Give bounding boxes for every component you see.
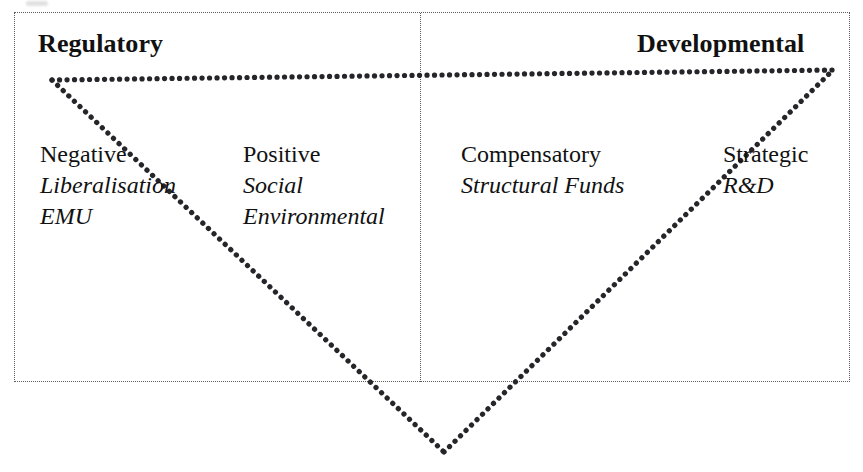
column-positive-item-2: Environmental — [243, 201, 385, 232]
heading-developmental: Developmental — [637, 31, 804, 57]
column-compensatory: Compensatory Structural Funds — [461, 139, 624, 201]
column-negative-heading: Negative — [40, 139, 176, 170]
column-strategic-item-1: R&D — [723, 170, 808, 201]
column-compensatory-heading: Compensatory — [461, 139, 624, 170]
column-negative: Negative Liberalisation EMU — [40, 139, 176, 232]
column-negative-item-1: Liberalisation — [40, 170, 176, 201]
column-strategic-heading: Strategic — [723, 139, 808, 170]
column-compensatory-item-1: Structural Funds — [461, 170, 624, 201]
column-positive: Positive Social Environmental — [243, 139, 385, 232]
column-strategic: Strategic R&D — [723, 139, 808, 201]
heading-regulatory: Regulatory — [38, 31, 163, 57]
scan-artifact-smudge — [26, 1, 48, 6]
column-positive-item-1: Social — [243, 170, 385, 201]
frame-vertical-divider — [420, 13, 421, 382]
column-positive-heading: Positive — [243, 139, 385, 170]
diagram-canvas: Regulatory Developmental Negative Libera… — [0, 0, 863, 472]
column-negative-item-2: EMU — [40, 201, 176, 232]
